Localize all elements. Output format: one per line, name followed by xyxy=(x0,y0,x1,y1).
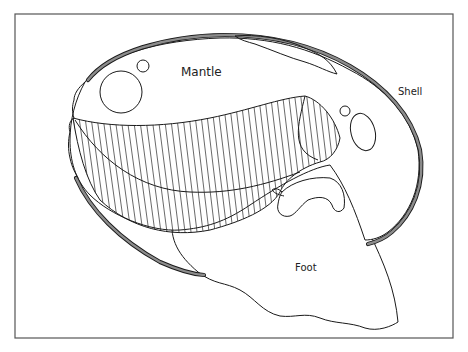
clam-anatomy-diagram: Mantle Shell Foot xyxy=(0,0,468,352)
label-mantle: Mantle xyxy=(181,65,222,79)
label-foot: Foot xyxy=(295,262,317,273)
label-shell: Shell xyxy=(398,86,422,97)
